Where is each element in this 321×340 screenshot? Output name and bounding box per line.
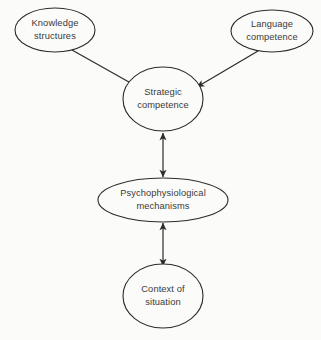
node-label-context-of-situation-line2: situation bbox=[145, 297, 181, 307]
edge-knowledge-to-strategic bbox=[72, 50, 136, 86]
node-label-psychophysiological-mechanisms-line2: mechanisms bbox=[136, 201, 189, 211]
node-label-strategic-competence-line1: Strategic bbox=[144, 87, 182, 97]
node-context-of-situation: Context of situation bbox=[123, 264, 203, 328]
node-shape-language-competence bbox=[231, 10, 313, 52]
node-label-knowledge-structures-line2: structures bbox=[34, 31, 76, 41]
node-language-competence: Language competence bbox=[231, 10, 313, 52]
node-psychophysiological-mechanisms: Psychophysiological mechanisms bbox=[98, 178, 228, 222]
node-label-strategic-competence-line2: competence bbox=[137, 100, 189, 110]
diagram-canvas: Knowledge structures Language competence… bbox=[0, 0, 321, 340]
node-label-context-of-situation-line1: Context of bbox=[141, 284, 185, 294]
node-label-knowledge-structures-line1: Knowledge bbox=[32, 18, 79, 28]
node-shape-psychophysiological-mechanisms bbox=[98, 178, 228, 222]
node-label-language-competence-line2: competence bbox=[246, 32, 298, 42]
node-label-psychophysiological-mechanisms-line1: Psychophysiological bbox=[120, 188, 206, 198]
node-shape-strategic-competence bbox=[123, 67, 203, 131]
node-shape-context-of-situation bbox=[123, 264, 203, 328]
node-label-language-competence-line1: Language bbox=[251, 19, 293, 29]
node-strategic-competence: Strategic competence bbox=[123, 67, 203, 131]
node-shape-knowledge-structures bbox=[15, 8, 95, 52]
node-knowledge-structures: Knowledge structures bbox=[15, 8, 95, 52]
diagram-svg: Knowledge structures Language competence… bbox=[0, 0, 321, 340]
edge-language-to-strategic bbox=[197, 51, 258, 87]
